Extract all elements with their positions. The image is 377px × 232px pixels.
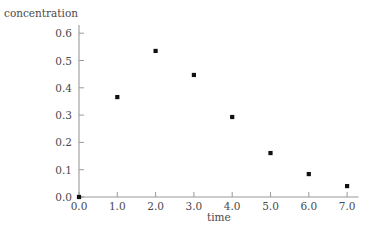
x-tick-label: 0.0	[59, 201, 99, 212]
x-tick-label: 6.0	[289, 201, 329, 212]
x-tick-label: 1.0	[97, 201, 137, 212]
data-point	[230, 115, 234, 119]
scatter-plot-figure: concentration 0.00.10.20.30.40.50.6 0.01…	[0, 0, 377, 232]
x-tick-label: 2.0	[136, 201, 176, 212]
data-points	[77, 49, 349, 199]
x-axis-label: time	[207, 211, 231, 223]
y-tick-label: 0.5	[38, 56, 72, 67]
x-axis-label-wrapper: time	[0, 212, 377, 223]
y-tick-label: 0.2	[38, 137, 72, 148]
x-tick-label: 7.0	[327, 201, 367, 212]
y-tick-label: 0.4	[38, 83, 72, 94]
y-tick-label: 0.6	[38, 28, 72, 39]
y-tick-label: 0.3	[38, 110, 72, 121]
x-tick-label: 5.0	[251, 201, 291, 212]
y-tick-label: 0.1	[38, 165, 72, 176]
data-point	[154, 49, 158, 53]
x-tick-label: 3.0	[174, 201, 214, 212]
data-point	[115, 95, 119, 99]
data-point	[345, 184, 349, 188]
data-point	[192, 73, 196, 77]
data-point	[307, 172, 311, 176]
data-point	[268, 151, 272, 155]
axes	[79, 25, 359, 197]
data-point	[77, 195, 81, 199]
x-tick-label: 4.0	[212, 201, 252, 212]
